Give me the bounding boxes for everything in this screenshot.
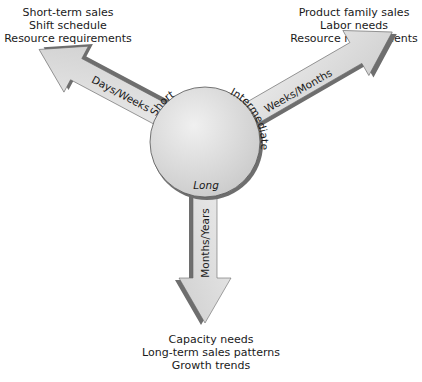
planning-horizon-diagram: Days/Weeks Weeks/Months Months/Years Sho… <box>0 0 422 382</box>
horizon-label-long: Long <box>193 179 219 191</box>
arrow-label-long: Months/Years <box>199 208 211 278</box>
